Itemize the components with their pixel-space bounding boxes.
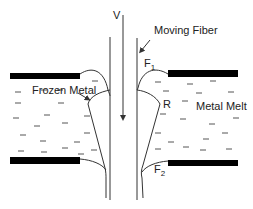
left-bottom-meniscus — [80, 159, 106, 170]
fiber-coating-diagram: V Moving Fiber Frozen Metal Metal Melt R… — [0, 0, 253, 209]
label-frozen-metal: Frozen Metal — [32, 84, 96, 96]
label-moving-fiber: Moving Fiber — [154, 24, 218, 36]
moving-fiber-pointer — [141, 40, 150, 51]
bottom-right-wall — [168, 160, 238, 166]
label-f2: F2 — [154, 163, 166, 178]
label-metal-melt: Metal Melt — [196, 100, 247, 112]
label-velocity: V — [113, 9, 121, 21]
diagram-svg: V Moving Fiber Frozen Metal Metal Melt R… — [0, 0, 253, 209]
right-melt-dashes — [155, 81, 239, 150]
bottom-left-wall — [10, 157, 80, 164]
top-left-wall — [10, 73, 80, 79]
left-frozen-profile — [88, 90, 110, 198]
right-frozen-profile — [137, 90, 160, 198]
right-meniscus — [137, 70, 168, 90]
label-r: R — [163, 98, 171, 110]
label-f1: F1 — [144, 57, 156, 72]
top-right-wall — [168, 70, 238, 77]
